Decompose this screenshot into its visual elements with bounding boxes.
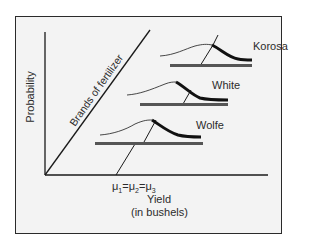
brand-label-white: White — [212, 79, 240, 91]
y-axis-label: Probability — [24, 71, 36, 122]
mean-line-top — [213, 35, 218, 45]
bar-wolfe — [95, 142, 203, 145]
bar-korosa — [170, 64, 252, 67]
x-axis-label: Yield — [147, 193, 171, 205]
x-axis-sublabel: (in bushels) — [131, 206, 188, 218]
mean-line-upper — [200, 45, 213, 66]
mean-line-lower — [116, 144, 135, 175]
bar-white — [140, 103, 228, 106]
depth-axis — [45, 30, 150, 175]
mean-line-middle — [144, 120, 156, 142]
brand-label-korosa: Korosa — [253, 40, 288, 52]
brand-label-wolfe: Wolfe — [196, 119, 224, 131]
